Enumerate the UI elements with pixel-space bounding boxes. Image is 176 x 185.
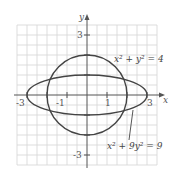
- x-tick-label: -1: [56, 98, 65, 108]
- ellipse-equation: x² + 9y² = 9: [107, 141, 163, 151]
- y-axis-arrow-icon: [85, 14, 90, 20]
- x-tick-label: 3: [147, 98, 153, 108]
- x-axis-label: x: [163, 95, 168, 105]
- circle-equation: x² + y² = 4: [114, 54, 164, 64]
- x-tick-label: 1: [105, 98, 111, 108]
- x-tick-label: -3: [16, 98, 25, 108]
- graph: -3 -1 1 3 3 -3 x y x² + y² = 4 x² + 9y² …: [0, 0, 176, 185]
- y-tick-label: 3: [77, 30, 83, 40]
- y-tick-label: -3: [73, 150, 82, 160]
- y-axis-label: y: [78, 12, 85, 22]
